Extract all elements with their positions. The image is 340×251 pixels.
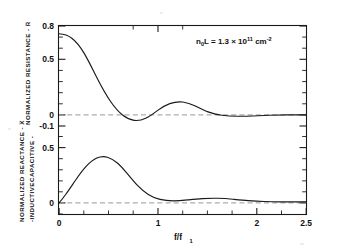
y-bottom-inductive-label: -INDUCTIVE — [28, 182, 35, 222]
y-bottom-right-ticks — [300, 137, 307, 203]
y-top-minor-ticks — [59, 37, 63, 104]
curve-normalized-reactance — [59, 157, 306, 203]
x-tick-label-2: 2 — [254, 218, 259, 228]
y-top-tick-label-2: 0 — [49, 110, 54, 120]
annotation-superscript-2: -2 — [267, 36, 272, 42]
annotation-unit: cm — [253, 37, 267, 46]
x-tick-label-3: 2.5 — [300, 218, 312, 228]
x-axis-title-subscript: 1 — [190, 238, 194, 244]
curve-normalized-resistance — [59, 34, 306, 121]
figure-container: 0.8 0.5 0 -0.1 — [0, 0, 340, 251]
x-axis-title-text: f/f — [174, 232, 182, 242]
x-axis-top-ticks — [133, 26, 183, 33]
y-bottom-inductive-label-group: -INDUCTIVE — [28, 182, 35, 222]
y-bottom-axis-title-group: NORMALIZED REACTANCE - X̅ — [18, 120, 25, 222]
y-bottom-major-ticks — [59, 148, 66, 203]
y-top-tick-label-1: 0.5 — [42, 54, 54, 64]
y-top-axis-title-group: NORMALIZED RESISTANCE - R̅ — [24, 21, 31, 125]
y-top-right-ticks — [300, 26, 307, 126]
annotation-text: n0L = 1.3 × 1011 cm-2 — [196, 36, 272, 48]
chart-svg: 0.8 0.5 0 -0.1 — [0, 0, 340, 251]
x-axis-title: f/f 1 — [174, 232, 194, 244]
plot-frame — [59, 26, 307, 215]
y-top-axis-title: NORMALIZED RESISTANCE - R̅ — [24, 21, 31, 125]
x-tick-label-1: 1 — [156, 218, 161, 228]
annotation-group: n0L = 1.3 × 1011 cm-2 — [196, 36, 272, 48]
y-bottom-capacitive-label-group: CAPACITIVE - — [28, 136, 35, 182]
y-top-tick-label-3: -0.1 — [39, 121, 54, 131]
x-axis-minor-ticks — [84, 211, 282, 215]
y-top-major-ticks — [59, 26, 66, 126]
x-tick-label-0: 0 — [57, 218, 62, 228]
y-top-tick-label-0: 0.8 — [42, 21, 54, 31]
annotation-mid: L = 1.3 × 10 — [204, 37, 248, 46]
y-bottom-capacitive-label: CAPACITIVE - — [28, 136, 35, 182]
y-bottom-tick-label-0: 0.5 — [42, 143, 54, 153]
y-bottom-tick-label-1: 0 — [49, 198, 54, 208]
y-bottom-axis-title: NORMALIZED REACTANCE - X̅ — [18, 120, 25, 222]
